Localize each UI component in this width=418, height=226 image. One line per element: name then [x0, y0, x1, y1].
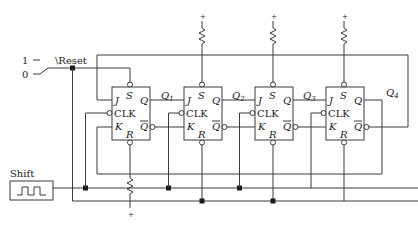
junction-dot [271, 199, 276, 204]
set-bubble [200, 82, 205, 87]
svg-text:R: R [125, 129, 134, 140]
svg-text:J: J [327, 95, 334, 106]
qbar-bubble [364, 125, 369, 130]
svg-text:J: J [113, 95, 120, 106]
junction-dot [200, 199, 205, 204]
svg-text:Q: Q [140, 95, 148, 106]
svg-text:+: + [342, 13, 348, 21]
clk-bubble [107, 111, 112, 116]
reset-bubble [342, 140, 347, 145]
svg-text:Q: Q [283, 121, 291, 132]
svg-text:CLK: CLK [328, 108, 350, 119]
svg-text:Q: Q [212, 121, 220, 132]
pullup-resistors: + + + [199, 13, 348, 82]
set-bubble [342, 82, 347, 87]
set-bubble [271, 82, 276, 87]
svg-text:J: J [256, 95, 263, 106]
reset-label: \Reset [55, 55, 87, 66]
set-bubble [128, 82, 133, 87]
svg-text:CLK: CLK [114, 108, 136, 119]
reset-switch[interactable]: 1 0 \Reset [22, 55, 130, 80]
supply-plus: + [128, 211, 134, 219]
clk-bubble [250, 111, 255, 116]
svg-text:S: S [126, 90, 133, 101]
reset-bubble [271, 140, 276, 145]
shift-label: Shift [10, 168, 34, 179]
q4-label: Q4 [386, 87, 399, 100]
clk-bubble [179, 111, 184, 116]
flipflop-2: S J CLK K R Q Q [179, 82, 227, 145]
svg-text:K: K [186, 121, 195, 132]
reset-bubble [200, 140, 205, 145]
qbar-bubble [150, 125, 155, 130]
shift-register-schematic: 1 0 \Reset S J CLK K R Q Q S [0, 0, 418, 226]
svg-text:Q: Q [212, 95, 220, 106]
svg-text:K: K [114, 121, 123, 132]
svg-text:J: J [185, 95, 192, 106]
svg-text:R: R [339, 129, 348, 140]
flipflop-4: S J CLK K R Q Q [321, 82, 369, 145]
flipflop-1: S J CLK K R Q Q [107, 82, 155, 145]
svg-text:+: + [200, 13, 206, 21]
switch-pos-1: 1 [22, 55, 28, 66]
switch-pos-0: 0 [22, 69, 28, 80]
svg-text:R: R [197, 129, 206, 140]
qbar-bubble [293, 125, 298, 130]
qbar-bubble [222, 125, 227, 130]
flipflop-3: S J CLK K R Q Q [250, 82, 298, 145]
reset-bubble [128, 140, 133, 145]
shift-clock[interactable]: Shift [10, 168, 53, 200]
q2-label: Q2 [232, 90, 245, 103]
svg-text:CLK: CLK [257, 108, 279, 119]
svg-text:S: S [340, 90, 347, 101]
svg-text:Q: Q [354, 95, 362, 106]
svg-text:K: K [257, 121, 266, 132]
clk-bubble [321, 111, 326, 116]
svg-text:Q: Q [140, 121, 148, 132]
q3-label: Q3 [303, 90, 316, 103]
svg-text:CLK: CLK [186, 108, 208, 119]
svg-text:S: S [198, 90, 205, 101]
svg-text:K: K [328, 121, 337, 132]
svg-text:R: R [268, 129, 277, 140]
svg-text:S: S [269, 90, 276, 101]
svg-text:Q: Q [283, 95, 291, 106]
q1-label: Q1 [161, 90, 174, 103]
svg-text:+: + [271, 13, 277, 21]
svg-text:Q: Q [354, 121, 362, 132]
